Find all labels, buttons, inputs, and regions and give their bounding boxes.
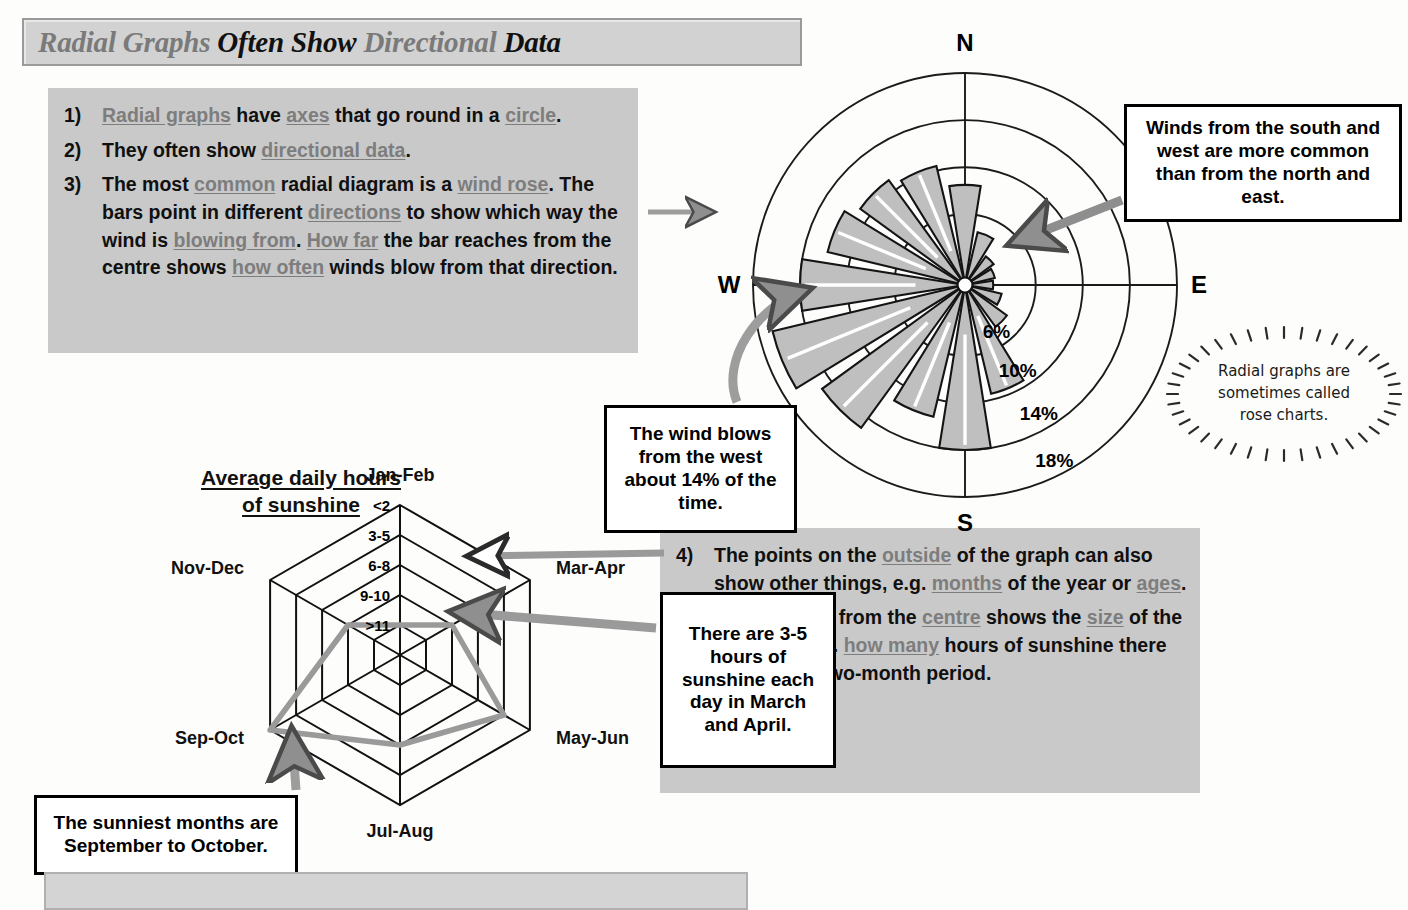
arrow-sunniest-to-sepoct: [292, 733, 296, 790]
plain-text: have: [231, 104, 286, 126]
rose-chart-note: Radial graphs aresometimes calledrose ch…: [1186, 352, 1382, 436]
arrow-westwind-callout-to-w: [733, 290, 806, 402]
list-item: 1)Radial graphs have axes that go round …: [56, 102, 628, 130]
list-item-number: 3): [56, 171, 102, 282]
callout-sunniest-months: The sunniest months are September to Oct…: [34, 795, 298, 875]
list-item-text: They often show directional data.: [102, 137, 628, 165]
wind-rose-petal-NNW: [901, 166, 965, 285]
sunburst-ray: [1173, 411, 1184, 414]
radar-tick-label-9-10: 9-10: [360, 587, 390, 604]
wind-rose-ring-18%: [753, 73, 1177, 497]
radar-heading-line-0: Average daily hours: [196, 464, 406, 491]
title-word-2: Directional: [363, 26, 503, 58]
callout-wind-from-west: The wind blows from the west about 14% o…: [604, 405, 797, 533]
wind-rose-petal-stripe: [978, 316, 1007, 385]
wind-rose-petal-SE: [965, 285, 1007, 327]
compass-label-N: N: [956, 29, 973, 56]
list-item-text: The most common radial diagram is a wind…: [102, 171, 628, 282]
radar-ring-6-8: [322, 565, 478, 745]
wind-rose-petal-W: [800, 259, 965, 311]
sunburst-ray: [1168, 384, 1179, 386]
radar-ring-3-5: [348, 595, 452, 715]
radar-spoke-Nov-Dec: [270, 580, 400, 655]
radar-spoke-Sep-Oct: [270, 655, 400, 730]
sunburst-ray: [1332, 444, 1337, 454]
wind-rose-petal-N: [949, 185, 980, 285]
keyword: axes: [286, 104, 329, 126]
title-word-3: Data: [504, 26, 561, 58]
keyword: ages: [1137, 572, 1181, 594]
sunburst-ray: [1168, 403, 1179, 405]
plain-text: .: [1181, 572, 1186, 594]
sunburst-ray: [1248, 447, 1251, 457]
notes-list-left: 1)Radial graphs have axes that go round …: [48, 88, 638, 282]
keyword: how many: [844, 634, 939, 656]
plain-text: .: [296, 229, 307, 251]
wind-rose-petal-WNW: [828, 211, 965, 285]
keyword: circle: [505, 104, 556, 126]
list-item-number: 1): [56, 102, 102, 130]
wind-rose-petal-stripe: [920, 175, 951, 251]
rose-chart-note-wrapper: Radial graphs aresometimes calledrose ch…: [1166, 332, 1402, 456]
keyword: directions: [308, 201, 401, 223]
wind-rose-petal-stripe: [876, 196, 937, 257]
wind-rose-petal-NE: [965, 256, 994, 285]
sunburst-ray: [1248, 330, 1251, 340]
wind-rose-ring-10%: [847, 167, 1083, 403]
bottom-panel-strip: [44, 872, 748, 910]
sunburst-ray: [1301, 328, 1303, 339]
list-item: 2)They often show directional data.: [56, 137, 628, 165]
plain-text: radial diagram is a: [275, 173, 457, 195]
plain-text: shows the: [981, 606, 1087, 628]
wind-rose-petal-stripe: [915, 323, 950, 407]
sunburst-ray: [1301, 449, 1303, 460]
radar-tick-label->11: >11: [365, 617, 390, 634]
sunburst-ray: [1346, 439, 1353, 448]
compass-label-W: W: [718, 271, 741, 298]
keyword: directional data: [261, 139, 405, 161]
radar-category-label-Nov-Dec: Nov-Dec: [171, 558, 244, 578]
radar-spoke-May-Jun: [400, 655, 530, 730]
sunburst-ray: [1346, 340, 1353, 349]
wind-rose-petal-ESE: [965, 285, 1002, 305]
sunburst-ray: [1215, 340, 1222, 349]
radar-category-label-Jul-Aug: Jul-Aug: [367, 821, 434, 841]
arrow-notes-to-radar: [472, 553, 664, 556]
rose-note-line-1: sometimes called: [1218, 383, 1350, 405]
list-item-number: 2): [56, 137, 102, 165]
radar-category-label-Mar-Apr: Mar-Apr: [556, 558, 625, 578]
sunburst-ray: [1266, 328, 1268, 339]
plain-text: of the year or: [1002, 572, 1136, 594]
sunburst-ray: [1332, 334, 1337, 344]
wind-rose-petal-stripe: [838, 233, 926, 269]
wind-rose-petal-NNE: [965, 232, 993, 285]
plain-text: The most: [102, 173, 194, 195]
radar-ring-9-10: [296, 535, 504, 775]
sunburst-ray: [1317, 330, 1320, 340]
sunburst-ray: [1317, 447, 1320, 457]
wind-rose-ring-label-14%: 14%: [1020, 403, 1058, 424]
list-item-text: Radial graphs have axes that go round in…: [102, 102, 628, 130]
wind-rose-petal-stripe: [844, 323, 928, 407]
keyword: size: [1087, 606, 1124, 628]
plain-text: from the: [833, 606, 922, 628]
sunburst-ray: [1389, 384, 1400, 386]
wind-rose-petal-ENE: [965, 269, 995, 285]
notes-panel-left: 1)Radial graphs have axes that go round …: [48, 88, 638, 353]
radar-ring-<2: [374, 625, 426, 685]
radar-tick-label-6-8: 6-8: [368, 557, 390, 574]
wind-rose-petal-S: [939, 285, 991, 450]
plain-text: that go round in a: [330, 104, 505, 126]
sunburst-ray: [1266, 449, 1268, 460]
sunshine-chart-heading: Average daily hoursof sunshine: [196, 464, 406, 519]
callout-winds-south-west: Winds from the south and west are more c…: [1124, 104, 1402, 222]
sunburst-ray: [1389, 403, 1400, 405]
title-word-1: Often Show: [217, 26, 363, 58]
wind-rose-petal-NW: [860, 180, 965, 285]
wind-rose-petal-SSE: [965, 285, 1024, 394]
wind-rose-petal-SW: [822, 285, 965, 428]
wind-rose-ring-label-6%: 6%: [983, 321, 1011, 342]
plain-text: They often show: [102, 139, 261, 161]
wind-rose-petal-WSW: [773, 285, 965, 388]
plain-text: The points on the: [714, 544, 882, 566]
